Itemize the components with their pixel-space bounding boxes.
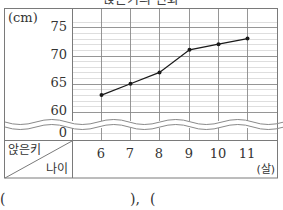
chart-frame xyxy=(5,9,278,179)
x-tick-6: 6 xyxy=(97,146,105,161)
data-point xyxy=(100,93,104,97)
data-point xyxy=(158,70,162,74)
x-tick-8: 8 xyxy=(155,146,163,161)
answer-blanks: ( ), ( xyxy=(0,191,283,209)
y-tick-60: 60 xyxy=(50,103,67,118)
data-point xyxy=(217,42,221,46)
data-points xyxy=(100,37,250,98)
y-tick-70: 70 xyxy=(50,47,67,62)
x-tick-7: 7 xyxy=(126,146,134,161)
data-point xyxy=(129,82,133,86)
y-unit-label: (cm) xyxy=(8,10,38,25)
x-tick-9: 9 xyxy=(185,146,193,161)
x-unit-label: (살) xyxy=(256,163,275,176)
x-tick-10: 10 xyxy=(210,146,227,161)
y-tick-65: 65 xyxy=(50,75,67,90)
data-point xyxy=(246,37,250,41)
data-line-series xyxy=(102,39,248,96)
answer-open-paren-1: ( xyxy=(0,191,5,207)
answer-open-paren-2: ( xyxy=(150,191,155,207)
header-label-sitting-height: 앉은키 xyxy=(8,143,41,157)
data-point xyxy=(188,48,192,52)
answer-close-paren-1: ), xyxy=(130,191,140,207)
x-tick-11: 11 xyxy=(239,146,256,161)
y-tick-75: 75 xyxy=(50,19,67,34)
header-label-age: 나이 xyxy=(46,162,68,176)
chart-title: 앉은키의 변화 xyxy=(103,0,179,6)
y-tick-0: 0 xyxy=(59,125,67,140)
